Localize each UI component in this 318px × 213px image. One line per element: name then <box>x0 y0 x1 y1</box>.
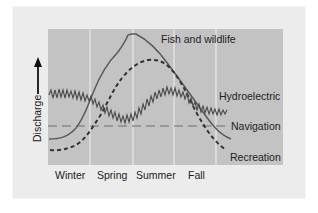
season-label-fall: Fall <box>188 169 205 181</box>
label-fish-wildlife: Fish and wildlife <box>161 33 236 45</box>
season-label-spring: Spring <box>97 169 128 181</box>
y-axis-label: Discharge <box>31 95 43 142</box>
season-label-summer: Summer <box>136 169 176 181</box>
chart-svg: Discharge Fish and wildlife Hydroelectri… <box>0 0 318 213</box>
season-label-winter: Winter <box>55 169 86 181</box>
label-hydroelectric: Hydroelectric <box>219 90 280 102</box>
y-axis-arrow-icon <box>34 57 42 94</box>
label-navigation: Navigation <box>231 120 281 132</box>
label-recreation: Recreation <box>230 151 281 163</box>
